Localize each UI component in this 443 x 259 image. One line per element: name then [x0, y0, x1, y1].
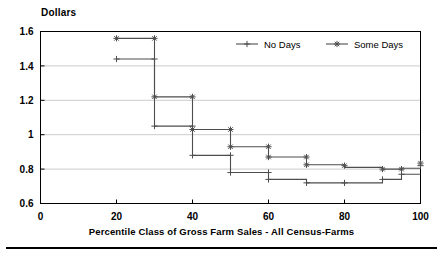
footer-rule [6, 247, 437, 249]
y-tick-label: 1 [28, 129, 34, 140]
x-tick-label: 20 [111, 211, 123, 222]
y-axis-label: Dollars [41, 7, 76, 18]
y-tick-label: 1.6 [20, 26, 34, 37]
series-line-no-days [117, 59, 421, 183]
x-tick-label: 0 [38, 211, 44, 222]
x-tick-label: 80 [339, 211, 351, 222]
chart-figure: Dollars 1.61.41.210.80.6020406080100No D… [0, 0, 443, 259]
x-axis-title: Percentile Class of Gross Farm Sales - A… [0, 226, 443, 237]
y-tick-label: 1.2 [20, 95, 34, 106]
y-tick-label: 0.8 [20, 164, 34, 175]
chart-plot-area: 1.61.41.210.80.6020406080100No DaysSome … [0, 0, 443, 259]
x-tick-label: 100 [412, 211, 429, 222]
legend-label: Some Days [354, 39, 403, 50]
x-tick-label: 60 [263, 211, 275, 222]
x-tick-label: 40 [187, 211, 199, 222]
plot-frame [41, 32, 421, 204]
y-tick-label: 1.4 [20, 61, 34, 72]
legend-label: No Days [264, 39, 301, 50]
y-tick-label: 0.6 [20, 198, 34, 209]
